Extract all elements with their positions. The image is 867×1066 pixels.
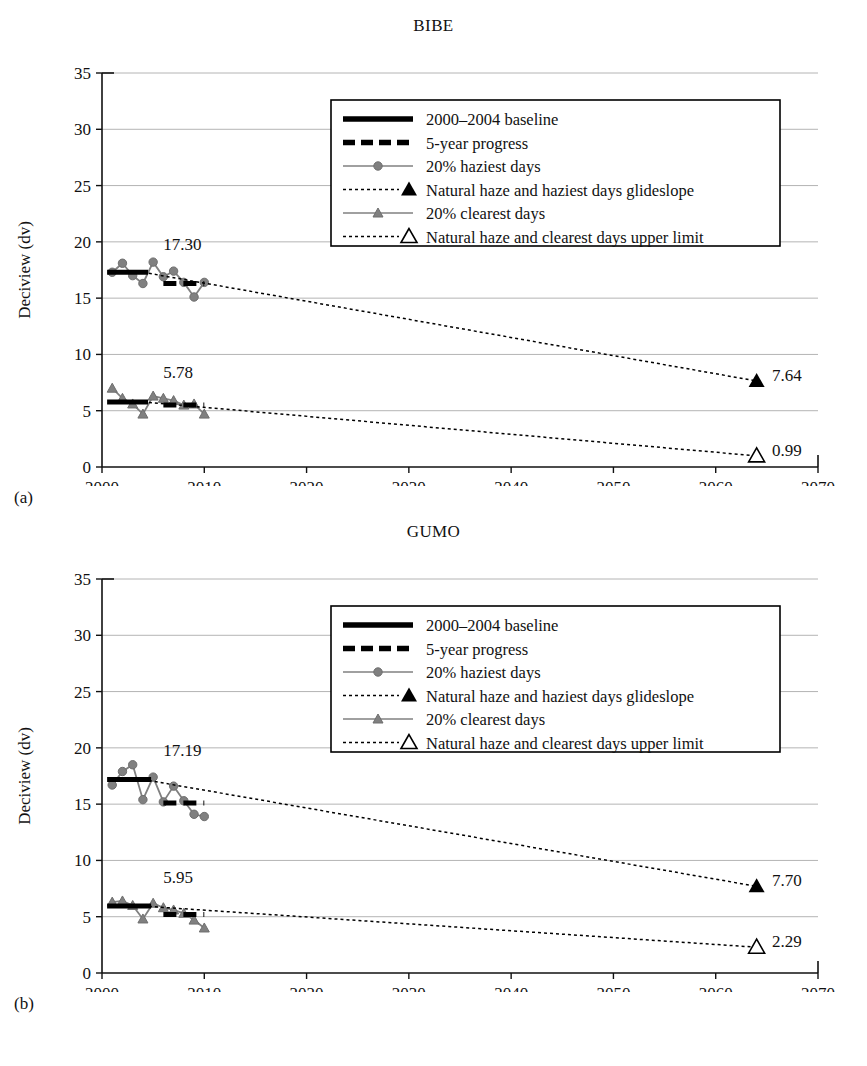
x-tick-label: 2010 [187, 984, 221, 992]
data-point-circle [139, 795, 147, 803]
x-tick-label: 2040 [494, 984, 528, 992]
x-tick-label: 2030 [392, 478, 426, 486]
annotation-label: 7.64 [772, 366, 802, 385]
panel-a-svg: 0510152025303520002010202020302040205020… [0, 16, 867, 486]
endpoint-open-triangle-icon [749, 939, 765, 953]
data-point-circle [128, 761, 136, 769]
series-line [112, 262, 204, 297]
data-point-circle [149, 258, 157, 266]
y-tick-label: 5 [83, 402, 92, 421]
y-axis-title: Deciview (dv) [15, 727, 34, 825]
legend-label: Natural haze and haziest days glideslope [426, 687, 694, 706]
y-tick-label: 20 [74, 233, 91, 252]
legend-label: 2000–2004 baseline [426, 110, 558, 129]
series-line [143, 779, 757, 886]
y-tick-label: 10 [74, 851, 91, 870]
legend-label: 20% haziest days [426, 157, 541, 176]
data-point-triangle [107, 383, 117, 392]
x-tick-label: 2000 [85, 478, 119, 486]
y-tick-label: 15 [74, 795, 91, 814]
x-tick-label: 2000 [85, 984, 119, 992]
series-line [143, 402, 757, 456]
data-point-circle [169, 267, 177, 275]
data-point-circle [190, 810, 198, 818]
legend-circle-marker-icon [374, 162, 382, 170]
figure-root: BIBE 05101520253035200020102020203020402… [0, 0, 867, 1066]
y-tick-label: 25 [74, 177, 91, 196]
x-tick-label: 2040 [494, 478, 528, 486]
annotation-label: 17.19 [163, 741, 201, 760]
legend-label: Natural haze and clearest days upper lim… [426, 734, 704, 753]
annotation-label: 2.29 [772, 932, 802, 951]
x-tick-label: 2050 [596, 478, 630, 486]
data-point-circle [118, 767, 126, 775]
x-tick-label: 2020 [290, 478, 324, 486]
panel-a-tag: (a) [14, 488, 33, 508]
legend-label: 20% clearest days [426, 204, 545, 223]
panel-a-plot: 0510152025303520002010202020302040205020… [0, 16, 867, 486]
series-line [143, 906, 757, 947]
legend-label: Natural haze and clearest days upper lim… [426, 228, 704, 247]
legend-label: 5-year progress [426, 640, 528, 659]
endpoint-filled-triangle-icon [749, 373, 765, 387]
y-axis-title: Deciview (dv) [15, 221, 34, 319]
x-tick-label: 2070 [801, 478, 835, 486]
y-tick-label: 15 [74, 289, 91, 308]
series-line [143, 272, 757, 381]
y-tick-label: 35 [74, 570, 91, 589]
y-tick-label: 10 [74, 345, 91, 364]
legend-label: 5-year progress [426, 134, 528, 153]
endpoint-open-triangle-icon [749, 448, 765, 462]
annotation-label: 7.70 [772, 871, 802, 890]
y-tick-label: 20 [74, 739, 91, 758]
y-tick-label: 30 [74, 120, 91, 139]
legend-label: Natural haze and haziest days glideslope [426, 181, 694, 200]
x-tick-label: 2060 [699, 984, 733, 992]
x-tick-label: 2020 [290, 984, 324, 992]
x-tick-label: 2060 [699, 478, 733, 486]
data-point-circle [108, 781, 116, 789]
x-tick-label: 2010 [187, 478, 221, 486]
panel-b-svg: 0510152025303520002010202020302040205020… [0, 522, 867, 992]
data-point-circle [118, 259, 126, 267]
y-tick-label: 0 [83, 964, 92, 983]
data-point-circle [139, 279, 147, 287]
data-point-triangle [148, 391, 158, 400]
y-tick-label: 25 [74, 683, 91, 702]
panel-b-tag: (b) [14, 994, 34, 1014]
annotation-label: 0.99 [772, 441, 802, 460]
y-tick-label: 0 [83, 458, 92, 477]
annotation-label: 5.95 [163, 868, 193, 887]
y-tick-label: 30 [74, 626, 91, 645]
annotation-label: 5.78 [163, 363, 193, 382]
data-point-circle [159, 273, 167, 281]
x-tick-label: 2070 [801, 984, 835, 992]
endpoint-filled-triangle-icon [749, 878, 765, 892]
y-tick-label: 5 [83, 908, 92, 927]
chart-panel-a: BIBE 05101520253035200020102020203020402… [0, 16, 867, 536]
panel-b-plot: 0510152025303520002010202020302040205020… [0, 522, 867, 992]
annotation-label: 17.30 [163, 235, 201, 254]
data-point-circle [200, 812, 208, 820]
x-tick-label: 2030 [392, 984, 426, 992]
legend-circle-marker-icon [374, 668, 382, 676]
data-point-circle [190, 293, 198, 301]
data-point-circle [169, 782, 177, 790]
legend-label: 20% clearest days [426, 710, 545, 729]
legend-label: 20% haziest days [426, 663, 541, 682]
x-tick-label: 2050 [596, 984, 630, 992]
chart-panel-b: GUMO 05101520253035200020102020203020402… [0, 522, 867, 1042]
y-tick-label: 35 [74, 64, 91, 83]
legend-label: 2000–2004 baseline [426, 616, 558, 635]
